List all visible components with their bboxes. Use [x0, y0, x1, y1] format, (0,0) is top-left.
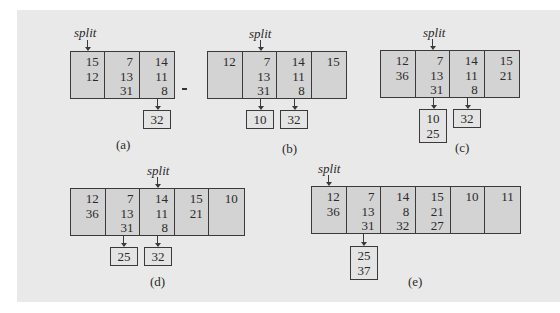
overflow-arrow-icon	[467, 98, 468, 108]
bucket-2: 14118	[140, 189, 175, 235]
bucket-1: 71331	[243, 52, 278, 98]
bucket-2: 14832	[381, 187, 416, 233]
bucket-4: 10	[209, 189, 244, 235]
bucket-3: 152127	[416, 187, 451, 233]
overflow-bucket: 1025	[419, 109, 447, 143]
overflow-bucket: 32	[144, 247, 172, 266]
bucket-0: 1236	[312, 187, 347, 233]
split-arrow-icon	[432, 39, 433, 49]
split-arrow-icon	[328, 175, 329, 185]
hash-table-c: 1236 71331 14118 1521	[380, 50, 520, 98]
bucket-3: 1521	[175, 189, 210, 235]
caption-a: (a)	[116, 138, 130, 151]
bucket-2: 14118	[450, 51, 485, 97]
overflow-bucket: 2537	[350, 246, 378, 280]
bucket-2: 14118	[140, 52, 174, 98]
bucket-0: 12	[208, 52, 243, 98]
bucket-3: 1521	[485, 51, 519, 97]
overflow-arrow-icon	[363, 234, 364, 245]
overflow-bucket: 32	[143, 110, 171, 129]
split-arrow-icon	[157, 177, 158, 187]
bucket-1: 71331	[347, 187, 382, 233]
hash-table-e: 1236 71331 14832 152127 10 11	[311, 186, 521, 234]
overflow-bucket: 25	[110, 247, 138, 266]
caption-d: (d)	[150, 275, 165, 288]
split-label-b: split	[249, 27, 271, 40]
bucket-5: 11	[485, 187, 520, 233]
split-label-e: split	[318, 162, 340, 175]
bucket-0: 1236	[71, 189, 106, 235]
overflow-bucket: 32	[453, 109, 481, 128]
overflow-arrow-icon	[157, 99, 158, 109]
hash-table-d: 1236 71331 14118 1521 10	[70, 188, 245, 236]
hash-table-b: 12 71331 14118 15	[207, 51, 347, 99]
overflow-arrow-icon	[157, 236, 158, 246]
overflow-arrow-icon	[294, 99, 295, 109]
bucket-1: 71331	[105, 52, 139, 98]
overflow-arrow-icon	[433, 98, 434, 108]
bucket-1: 71331	[416, 51, 451, 97]
overflow-arrow-icon	[123, 236, 124, 246]
bucket-0: 1236	[381, 51, 416, 97]
bucket-0: 1512	[71, 52, 105, 98]
split-arrow-icon	[87, 40, 88, 50]
bucket-2: 14118	[277, 52, 312, 98]
caption-c: (c)	[455, 141, 469, 154]
dash-mark	[182, 88, 187, 90]
split-label-a: split	[74, 26, 96, 39]
caption-b: (b)	[282, 142, 297, 155]
overflow-bucket: 32	[280, 110, 308, 129]
split-label-d: split	[147, 164, 169, 177]
overflow-arrow-icon	[260, 99, 261, 109]
caption-e: (e)	[408, 275, 422, 288]
bucket-4: 10	[451, 187, 486, 233]
bucket-1: 71331	[106, 189, 141, 235]
hash-table-a: 1512 71331 14118	[70, 51, 175, 99]
split-label-c: split	[423, 26, 445, 39]
split-arrow-icon	[260, 40, 261, 50]
bucket-3: 15	[312, 52, 346, 98]
overflow-bucket: 10	[246, 110, 274, 129]
